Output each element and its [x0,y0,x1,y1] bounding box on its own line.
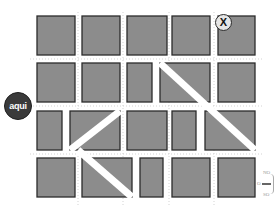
city-block-r3-c4 [172,111,196,150]
city-block-r2-c5 [218,63,255,102]
you-are-here-label: aqui [9,101,26,111]
city-block-r3-c3 [127,111,167,150]
city-block-r2-c3 [127,63,152,102]
city-block-r4-c3 [140,158,163,197]
compass-arc-icon [270,174,274,194]
city-block-r2-c2 [82,63,120,102]
compass-rose: NO O SO [257,170,275,200]
city-blocks [37,16,255,197]
city-block-r4-c5 [218,158,255,197]
destination-x-marker[interactable]: X [215,14,232,31]
city-block-r1-c4 [172,16,210,55]
city-block-r1-c1 [37,16,75,55]
compass-west-label: O [257,181,261,186]
street-map [0,0,275,211]
city-block-r1-c3 [127,16,167,55]
city-block-r1-c2 [82,16,120,55]
compass-southwest-label: SO [263,192,269,197]
city-block-r3-c1 [37,111,62,150]
city-block-r4-c1 [37,158,75,197]
destination-x-label: X [220,17,227,28]
city-block-r2-c1 [37,63,75,102]
you-are-here-marker[interactable]: aqui [4,92,32,120]
city-block-r4-c4 [172,158,210,197]
